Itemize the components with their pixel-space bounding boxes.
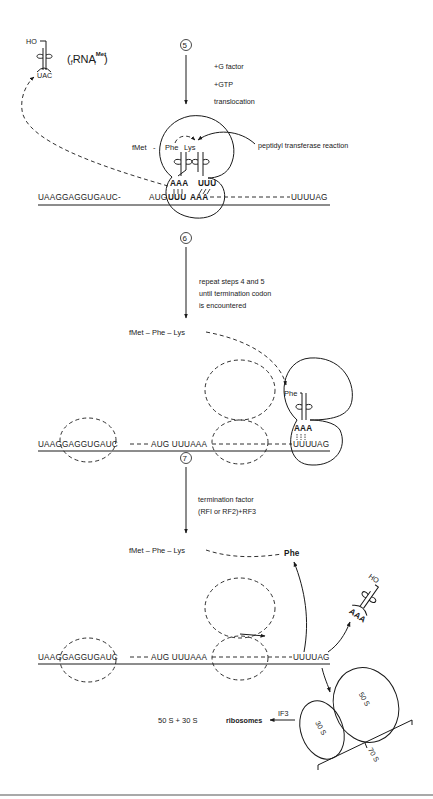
large-subunit-label: 50 S bbox=[357, 690, 372, 707]
products-label: 50 S + 30 S bbox=[158, 716, 197, 725]
bracket-tick-icon bbox=[365, 743, 367, 748]
step-6-condition-3: is encountered bbox=[199, 301, 246, 310]
if3-label: IF3 bbox=[278, 709, 288, 718]
step-6: 6 repeat steps 4 and 5 until termination… bbox=[181, 233, 272, 319]
panel-2-peptide: fMet – Phe – Lys bbox=[129, 328, 185, 337]
mrna-coding: AUG UUUAAA bbox=[151, 653, 207, 662]
trna-release-arrow-icon bbox=[22, 77, 168, 186]
trna-name-label: (fRNAMetf) bbox=[67, 51, 108, 66]
step-7: 7 termination factor (RFI or RF2)+RF3 bbox=[181, 453, 257, 534]
peptidyl-transferase-pointer-icon bbox=[198, 132, 255, 144]
released-70s-ribosome: 50 S 30 S 70 S bbox=[292, 658, 412, 770]
peptide-transfer-arrow-icon bbox=[206, 332, 286, 385]
step-5: 5 +G factor +GTP translocation bbox=[181, 40, 255, 107]
step-6-condition-2: until termination codon bbox=[199, 289, 271, 298]
step-6-number: 6 bbox=[183, 234, 188, 243]
codon-aaa: AAA bbox=[190, 193, 208, 202]
trna-lys-icon bbox=[198, 152, 203, 176]
mrna-3prime: UUUUAG bbox=[293, 653, 330, 662]
protein-synthesis-diagram: HO UAC (fRNAMetf) 5 +G factor +GTP trans… bbox=[0, 0, 433, 799]
ribosome-release-arrow-icon bbox=[322, 668, 330, 692]
peptide-bond: - bbox=[153, 143, 156, 152]
small-subunit-label: 30 S bbox=[313, 719, 328, 736]
released-trna-fmet: HO UAC (fRNAMetf) bbox=[26, 37, 108, 80]
step-7-condition-2: (RFI or RF2)+RF3 bbox=[198, 507, 256, 516]
step-5-condition-1: +G factor bbox=[214, 62, 244, 71]
70s-bracket-icon bbox=[318, 720, 412, 770]
trna-anticodon-label: UAC bbox=[37, 71, 52, 80]
peptide-phe: Phe bbox=[165, 143, 178, 152]
ghost-large-subunit-icon bbox=[205, 360, 275, 420]
complex-label: 70 S bbox=[366, 746, 381, 763]
trna-phe-arms-icon bbox=[174, 159, 192, 164]
dissociation: IF3 50 S + 30 S ribosomes bbox=[158, 709, 295, 725]
step-6-condition-1: repeat steps 4 and 5 bbox=[199, 277, 265, 286]
mrna-5prime: UAAGGAGGUGAUC- bbox=[38, 193, 121, 202]
panel-1-mrna: UAAGGAGGUGAUC- AUG UUU AAA UUUUAG bbox=[38, 193, 330, 205]
step-7-condition-1: termination factor bbox=[198, 495, 254, 504]
trna-hydroxyl-label: HO bbox=[26, 37, 37, 46]
peptide-release-arrow-icon bbox=[294, 562, 307, 652]
step-5-number: 5 bbox=[183, 41, 188, 50]
trna-phe-icon bbox=[300, 393, 306, 420]
step-5-condition-2: +GTP bbox=[214, 80, 233, 89]
stop-codon: UAG bbox=[311, 440, 329, 449]
peptide-fmet: fMet bbox=[132, 143, 148, 152]
trna-amino-acid: Phe bbox=[284, 389, 297, 398]
panel-1-ribosome: fMet - Phe Lys peptidyl transferase reac… bbox=[132, 116, 348, 219]
panel-3-peptide: fMet – Phe – Lys bbox=[129, 546, 185, 555]
trna-arms-icon bbox=[296, 404, 312, 409]
step-7-number: 7 bbox=[183, 454, 188, 463]
ghost-small-subunit-icon bbox=[212, 420, 268, 464]
panel-2-anticodon: AAA bbox=[294, 424, 312, 433]
start-codon: AUG bbox=[149, 193, 167, 202]
peptidyl-transfer-dashed-arrow-icon bbox=[175, 136, 195, 143]
codon-uuu: UUU bbox=[293, 440, 311, 449]
mrna-5prime: UAAGGAGGUGAUC bbox=[38, 653, 118, 662]
peptide-release-dashed-icon bbox=[206, 550, 282, 557]
released-amino-acid: Phe bbox=[284, 549, 300, 558]
anticodon-uuu: UUU bbox=[198, 179, 216, 188]
ghost-large-subunit-icon bbox=[205, 578, 275, 638]
trna-hydroxyl-label: HO bbox=[367, 572, 381, 586]
mrna-coding: AUG UUUAAA bbox=[151, 440, 207, 449]
released-trna-lys: HO AAA bbox=[344, 572, 390, 625]
peptide-lys: Lys bbox=[184, 143, 196, 152]
panel-2-mrna: UAAGGAGGUGAUC AUG UUUAAA UUU UAG bbox=[38, 440, 330, 451]
step-5-condition-3: translocation bbox=[214, 97, 255, 106]
mrna-5prime: UAAGGAGGUGAUC bbox=[38, 440, 118, 449]
trna-d-loop-icon bbox=[37, 54, 43, 58]
anticodon-aaa: AAA bbox=[170, 179, 188, 188]
mrna-3prime: UUUUAG bbox=[291, 193, 328, 202]
trna-lys-arms-icon bbox=[192, 159, 209, 164]
panel-3-mrna: UAAGGAGGUGAUC AUG UUUAAA UUUUAG bbox=[38, 653, 330, 664]
ghost-small-subunit-icon bbox=[212, 636, 268, 680]
products-ribosomes-label: ribosomes bbox=[226, 716, 262, 725]
trna-t-loop-icon bbox=[46, 54, 52, 58]
peptidyl-transferase-label: peptidyl transferase reaction bbox=[258, 141, 348, 150]
trna-release-arrow-icon bbox=[328, 622, 350, 652]
codon-uuu: UUU bbox=[168, 193, 186, 202]
